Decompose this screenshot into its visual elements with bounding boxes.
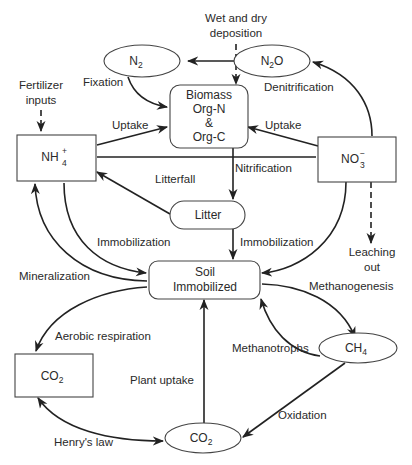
co2-box-node: CO2 xyxy=(15,354,93,397)
svg-text:−: − xyxy=(360,148,365,158)
denitrification-label: Denitrification xyxy=(264,81,334,93)
methanogenesis-label: Methanogenesis xyxy=(309,280,394,292)
soil-node: Soil Immobilized xyxy=(149,261,260,299)
svg-text:Org-N: Org-N xyxy=(193,102,226,116)
aerobic-respiration-label: Aerobic respiration xyxy=(55,330,151,342)
svg-text:Biomass: Biomass xyxy=(186,88,232,102)
immobilization-right-arrow xyxy=(262,182,346,273)
immobilization-left-label: Immobilization xyxy=(97,236,171,248)
uptake-right-label: Uptake xyxy=(265,119,301,131)
nitrification-label: Nitrification xyxy=(235,162,292,174)
svg-text:4: 4 xyxy=(62,158,67,168)
ammonium-node: NH + 4 xyxy=(17,135,96,181)
svg-text:Org-C: Org-C xyxy=(193,130,226,144)
methane-node: CH4 xyxy=(319,333,397,363)
svg-text:&: & xyxy=(205,116,213,130)
svg-text:Litter: Litter xyxy=(195,208,222,222)
fixation-arrow xyxy=(128,77,167,107)
immobilization-right-label: Immobilization xyxy=(240,236,314,248)
deposition-label-2: deposition xyxy=(210,27,262,39)
svg-text:Immobilized: Immobilized xyxy=(173,280,237,294)
svg-text:3: 3 xyxy=(360,160,365,170)
co2-ellipse-node: CO2 xyxy=(165,423,241,453)
fixation-label: Fixation xyxy=(83,76,123,88)
nitrate-node: NO − 3 xyxy=(318,137,396,182)
methanotrophs-label: Methanotrophs xyxy=(232,342,309,354)
henrys-law-label: Henry's law xyxy=(54,436,114,448)
uptake-left-label: Uptake xyxy=(112,119,148,131)
oxidation-label: Oxidation xyxy=(278,409,327,421)
svg-text:Soil: Soil xyxy=(195,265,215,279)
svg-text:+: + xyxy=(62,146,67,156)
leaching-label-2: out xyxy=(364,261,381,273)
biomass-node: Biomass Org-N & Org-C xyxy=(170,85,248,148)
mineralization-arrow xyxy=(35,184,147,281)
fertilizer-label: Fertilizer xyxy=(19,79,63,91)
leaching-label: Leaching xyxy=(349,246,396,258)
fertilizer-label-2: inputs xyxy=(26,94,57,106)
svg-text:NO: NO xyxy=(341,152,359,166)
immobilization-left-arrow xyxy=(64,183,146,273)
n2o-node: N2O xyxy=(234,45,310,77)
oxidation-arrow xyxy=(243,363,345,437)
svg-text:NH: NH xyxy=(41,150,58,164)
nitrogen-carbon-cycle-diagram: N2 N2O Biomass Org-N & Org-C NH + 4 NO −… xyxy=(0,0,412,465)
litter-node: Litter xyxy=(170,201,245,229)
mineralization-label: Mineralization xyxy=(19,270,90,282)
deposition-label: Wet and dry xyxy=(205,12,267,24)
plant-uptake-label: Plant uptake xyxy=(130,374,194,386)
n2-node: N2 xyxy=(104,45,180,77)
litterfall-label: Litterfall xyxy=(155,173,195,185)
denitrification-arrow xyxy=(313,62,372,136)
henrys-law-arrow xyxy=(38,398,163,441)
